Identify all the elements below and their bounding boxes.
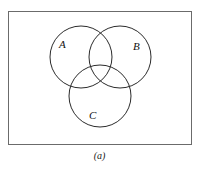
venn-diagram-canvas <box>0 0 199 169</box>
figure-caption: (a) <box>0 150 199 162</box>
set-label-a: A <box>59 39 66 50</box>
set-label-b: B <box>133 41 140 52</box>
figure-frame-border <box>9 12 192 145</box>
set-label-c: C <box>89 110 96 121</box>
venn-diagram-figure: A B C (a) <box>0 0 199 169</box>
